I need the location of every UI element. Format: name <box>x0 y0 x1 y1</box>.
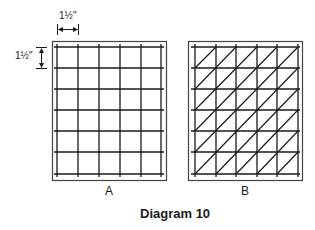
panel-b <box>189 42 303 181</box>
panel-b-frame <box>189 42 303 181</box>
panel-a-horizontal-lines <box>54 47 164 174</box>
horizontal-dimension-label: 1½" <box>59 11 76 21</box>
horizontal-dimension-marker <box>58 24 79 35</box>
vertical-dimension-marker <box>36 48 47 69</box>
diagram-canvas <box>0 0 315 230</box>
panel-a-label: A <box>105 185 113 197</box>
panel-b-label: B <box>241 185 249 197</box>
panel-a <box>53 42 167 181</box>
vertical-dimension-label: 1½" <box>15 51 32 61</box>
panel-a-frame <box>53 42 167 181</box>
diagram-title: Diagram 10 <box>140 207 210 220</box>
panel-b-horizontal-lines <box>191 47 300 174</box>
